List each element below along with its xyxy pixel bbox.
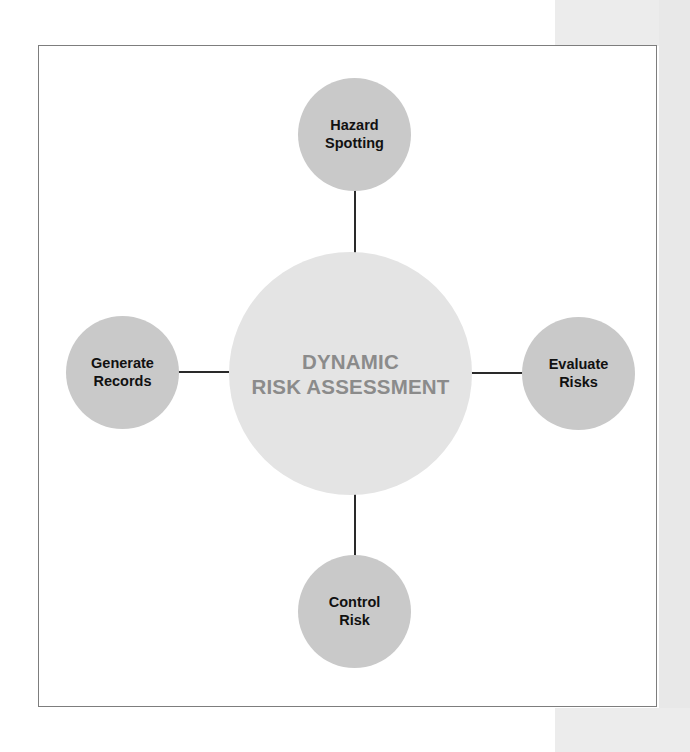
node-evaluate-risks-label: Evaluate Risks [549, 356, 609, 391]
node-evaluate-risks[interactable]: Evaluate Risks [522, 317, 635, 430]
node-generate-records[interactable]: Generate Records [66, 316, 179, 429]
node-control-risk-label: Control Risk [329, 594, 381, 629]
node-hazard-spotting[interactable]: Hazard Spotting [298, 78, 411, 191]
connector-center-to-control-risk [354, 494, 356, 556]
connector-center-to-evaluate-risks [471, 372, 523, 374]
connector-center-to-generate-records [177, 371, 229, 373]
node-generate-records-label: Generate Records [91, 355, 154, 390]
node-control-risk[interactable]: Control Risk [298, 555, 411, 668]
node-hazard-spotting-label: Hazard Spotting [325, 117, 384, 152]
dynamic-risk-assessment-diagram: DYNAMIC RISK ASSESSMENT Hazard Spotting … [0, 0, 690, 752]
node-center-dynamic-risk-assessment[interactable]: DYNAMIC RISK ASSESSMENT [229, 252, 472, 495]
node-center-label: DYNAMIC RISK ASSESSMENT [251, 349, 449, 399]
connector-center-to-hazard-spotting [354, 190, 356, 253]
